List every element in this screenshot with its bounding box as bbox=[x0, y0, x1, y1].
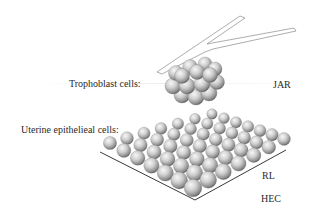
cell-line-hec: HEC bbox=[261, 194, 281, 204]
epithelial-cell bbox=[193, 139, 207, 153]
epithelial-cell bbox=[238, 131, 251, 144]
epithelial-cell bbox=[250, 136, 263, 149]
epithelial-cell bbox=[218, 150, 233, 165]
epithelial-cell bbox=[219, 113, 230, 124]
epithelial-cell bbox=[134, 138, 147, 151]
epithelial-cell bbox=[222, 138, 235, 151]
epithelial-cell bbox=[234, 143, 248, 157]
epithelial-cell bbox=[262, 140, 276, 154]
epithelial-cell bbox=[190, 113, 201, 124]
epithelial-cell bbox=[206, 145, 220, 159]
epithelial-cell bbox=[226, 127, 238, 139]
epithelial-cell bbox=[230, 117, 241, 128]
epithelial-cell bbox=[242, 121, 254, 133]
epithelial-cell bbox=[197, 128, 209, 140]
pipette-icon bbox=[157, 16, 296, 74]
epithelial-cell bbox=[147, 145, 161, 159]
trophoblast-label: Trophoblast cells: bbox=[69, 79, 141, 89]
epithelial-cell bbox=[180, 134, 193, 147]
epithelial-cell bbox=[207, 109, 217, 119]
epithelial-cell bbox=[190, 152, 205, 167]
epithelial-cell bbox=[184, 179, 202, 197]
epithelial-cell bbox=[215, 164, 231, 180]
epithelial-cell bbox=[266, 129, 278, 141]
epithelial-cell bbox=[121, 132, 134, 145]
epithelial-cell bbox=[151, 133, 164, 146]
epithelial-cell bbox=[214, 122, 226, 134]
epithelial-cell bbox=[130, 151, 145, 166]
epithelial-cell bbox=[202, 118, 213, 129]
uterine-label: Uterine epithelieal cells: bbox=[21, 125, 119, 135]
epithelial-cell bbox=[138, 127, 150, 139]
epithelial-cell bbox=[160, 152, 175, 167]
epithelial-cell bbox=[172, 118, 183, 129]
epithelial-monolayer bbox=[100, 109, 290, 200]
epithelial-cell bbox=[144, 158, 159, 173]
epithelial-cell bbox=[209, 133, 222, 146]
epithelial-cell bbox=[103, 136, 116, 149]
epithelial-cell bbox=[177, 145, 191, 159]
epithelial-cell bbox=[278, 133, 291, 146]
cell-line-rl: RL bbox=[262, 171, 275, 181]
epithelial-cell bbox=[117, 144, 131, 158]
epithelial-cell bbox=[231, 156, 246, 171]
epithelial-cell bbox=[168, 128, 180, 140]
cell-line-jar: JAR bbox=[273, 80, 291, 90]
epithelial-cell bbox=[200, 171, 217, 188]
epithelial-cell bbox=[247, 148, 261, 162]
epithelial-cell bbox=[155, 123, 167, 135]
epithelial-cell bbox=[254, 125, 266, 137]
epithelial-cell bbox=[185, 123, 197, 135]
epithelial-cell bbox=[164, 139, 178, 153]
epithelial-cell bbox=[173, 158, 188, 173]
